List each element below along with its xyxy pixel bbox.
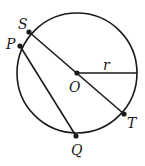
label-p: P xyxy=(5,36,16,52)
label-t: T xyxy=(127,115,138,131)
label-s: S xyxy=(18,16,28,32)
point-p xyxy=(17,43,22,48)
point-t xyxy=(121,111,126,116)
chord-pq xyxy=(20,46,76,136)
label-q: Q xyxy=(71,142,83,158)
point-q xyxy=(73,133,78,138)
point-o xyxy=(74,70,79,75)
label-o: O xyxy=(69,79,81,95)
circle-diagram: S P O r T Q xyxy=(0,0,145,166)
label-r: r xyxy=(103,57,111,73)
